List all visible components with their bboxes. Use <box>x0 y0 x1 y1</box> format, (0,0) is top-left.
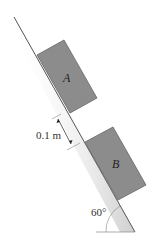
block-b-label: B <box>112 157 120 171</box>
angle-label: 60° <box>91 206 106 218</box>
incline-line <box>14 17 135 232</box>
incline-diagram: A B 0.1 m 60° <box>0 0 154 248</box>
block-a-label: A <box>62 71 71 85</box>
spacing-label: 0.1 m <box>36 129 62 141</box>
incline-surface-shading <box>6 17 135 232</box>
